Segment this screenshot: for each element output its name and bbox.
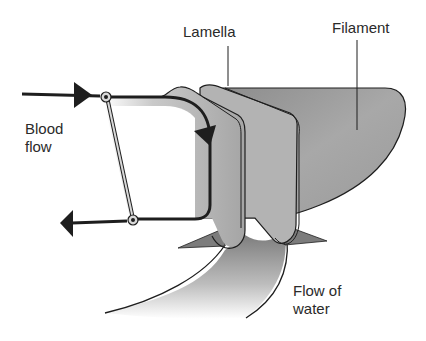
water-flow-label-line2: water [293,300,330,318]
blood-out-arrow [60,210,127,237]
gill-diagram [0,0,426,341]
lamella-front [103,87,245,248]
blood-flow-label-line1: Blood [25,120,63,138]
filament-label: Filament [332,19,390,37]
lamella-label: Lamella [183,23,236,41]
blood-flow-label-line2: flow [25,138,52,156]
blood-in-arrow [22,82,100,108]
water-flow-label-line1: Flow of [293,282,341,300]
